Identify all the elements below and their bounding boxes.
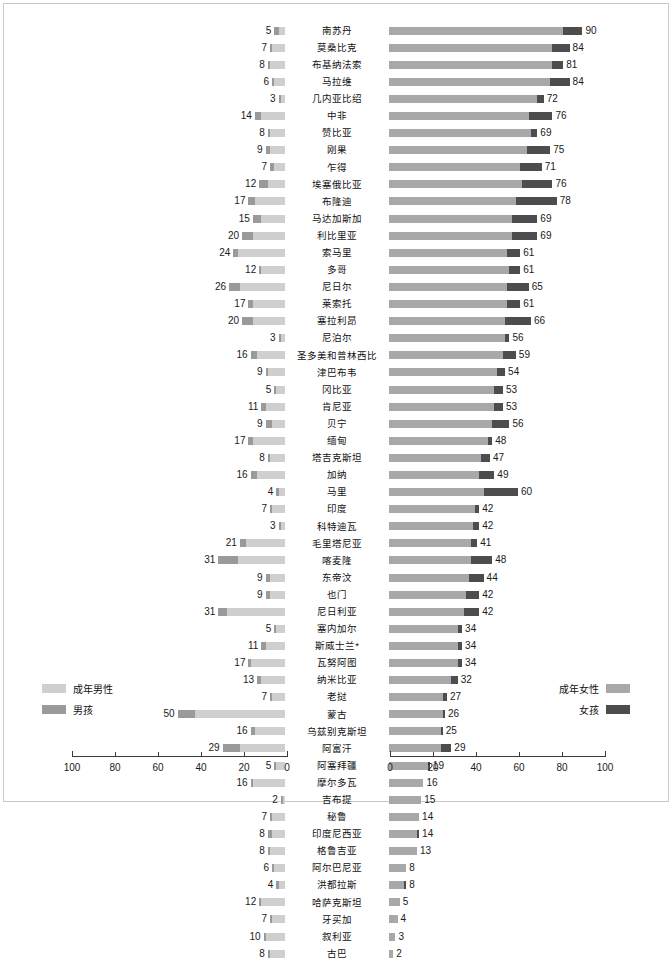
country-label: 贝宁	[287, 419, 387, 429]
axis-tick-label: 0	[284, 762, 290, 773]
country-label: 利比里亚	[287, 231, 387, 241]
axis-tick	[562, 752, 563, 757]
left-bar-segment-adult-men	[246, 539, 285, 547]
left-bar-segment-adult-men	[261, 676, 285, 684]
right-value-label: 76	[555, 111, 566, 121]
country-label: 也门	[287, 590, 387, 600]
right-value-label: 56	[512, 333, 523, 343]
left-value-label: 13	[243, 675, 254, 685]
axis-line-right	[390, 756, 605, 757]
right-bar	[389, 539, 477, 547]
right-bar-segment-girls	[520, 163, 542, 171]
legend-label-boys: 男孩	[73, 702, 93, 717]
left-bar-segment-boys	[223, 744, 240, 752]
row-right-pane: 61	[387, 299, 670, 309]
axis-tick	[519, 752, 520, 757]
left-value-label: 24	[219, 248, 230, 258]
left-bar-segment-adult-men	[283, 796, 285, 804]
right-bar-segment-adult-women	[389, 163, 520, 171]
country-label: 尼日尔	[287, 282, 387, 292]
right-bar-segment-girls	[552, 44, 569, 52]
country-label: 印度	[287, 504, 387, 514]
right-bar-segment-adult-women	[389, 625, 458, 633]
left-value-label: 9	[257, 367, 263, 377]
right-bar-segment-girls	[479, 471, 494, 479]
axis-tick-label: 0	[387, 762, 393, 773]
row-left-pane: 7	[4, 504, 287, 514]
left-bar	[264, 933, 286, 941]
right-bar	[389, 830, 419, 838]
right-bar-segment-adult-women	[389, 249, 507, 257]
right-value-label: 56	[512, 419, 523, 429]
chart-row: 7秘鲁14	[4, 808, 670, 825]
left-bar-segment-adult-men	[270, 129, 285, 137]
row-right-pane: 48	[387, 555, 670, 565]
row-right-pane: 54	[387, 367, 670, 377]
right-bar-segment-adult-women	[389, 608, 464, 616]
chart-row: 5冈比亚53	[4, 381, 670, 398]
right-value-label: 69	[540, 214, 551, 224]
row-right-pane: 25	[387, 726, 670, 736]
chart-row: 4马里60	[4, 484, 670, 501]
left-bar-segment-adult-men	[274, 163, 285, 171]
right-bar-segment-girls	[503, 351, 516, 359]
row-right-pane: 44	[387, 573, 670, 583]
row-right-pane: 4	[387, 914, 670, 924]
row-left-pane: 16	[4, 726, 287, 736]
chart-row: 12多哥61	[4, 261, 670, 278]
row-right-pane: 65	[387, 282, 670, 292]
left-bar-segment-boys	[259, 180, 268, 188]
left-bar	[268, 830, 285, 838]
right-value-label: 15	[424, 795, 435, 805]
row-right-pane: 59	[387, 350, 670, 360]
right-value-label: 13	[420, 846, 431, 856]
left-bar-segment-adult-men	[261, 898, 285, 906]
row-left-pane: 12	[4, 897, 287, 907]
right-bar-segment-adult-women	[389, 437, 488, 445]
left-bar	[272, 864, 285, 872]
left-value-label: 4	[268, 880, 274, 890]
left-bar-segment-adult-men	[253, 232, 285, 240]
axis-tick	[72, 751, 73, 757]
left-bar	[178, 710, 286, 718]
row-right-pane: 66	[387, 316, 670, 326]
chart-rows: 5南苏丹907莫桑比克848布基纳法索816马拉维843几内亚比绍7214中非7…	[4, 22, 670, 962]
row-right-pane: 76	[387, 111, 670, 121]
right-bar	[389, 608, 479, 616]
left-value-label: 8	[259, 829, 265, 839]
axis-tick	[244, 752, 245, 757]
row-right-pane: 8	[387, 863, 670, 873]
right-value-label: 42	[482, 521, 493, 531]
left-value-label: 7	[261, 504, 267, 514]
row-right-pane: 69	[387, 128, 670, 138]
right-bar-segment-girls	[492, 420, 509, 428]
left-value-label: 8	[259, 949, 265, 959]
legend-item-adult-men: 成年男性	[42, 680, 113, 696]
right-bar-segment-girls	[507, 300, 520, 308]
row-left-pane: 24	[4, 248, 287, 258]
right-bar-segment-girls	[475, 505, 479, 513]
right-bar	[389, 78, 570, 86]
row-left-pane: 5	[4, 385, 287, 395]
legend-right: 成年女性 女孩	[559, 680, 630, 722]
right-bar	[389, 351, 516, 359]
right-bar	[389, 454, 490, 462]
right-bar	[389, 283, 529, 291]
left-bar	[242, 232, 285, 240]
right-bar-segment-adult-women	[389, 78, 550, 86]
right-bar	[389, 864, 406, 872]
country-label: 尼泊尔	[287, 333, 387, 343]
left-bar-segment-adult-men	[253, 317, 285, 325]
chart-row: 7莫桑比克84	[4, 39, 670, 56]
right-bar-segment-adult-women	[389, 727, 441, 735]
left-bar	[251, 351, 285, 359]
right-bar-segment-girls	[484, 488, 518, 496]
country-label: 塞拉利昂	[287, 316, 387, 326]
right-bar-segment-girls	[473, 522, 479, 530]
chart-row: 29阿富汗29	[4, 740, 670, 757]
row-right-pane: 72	[387, 94, 670, 104]
chart-row: 26尼日尔65	[4, 278, 670, 295]
left-bar-segment-adult-men	[270, 61, 285, 69]
row-left-pane: 12	[4, 179, 287, 189]
right-value-label: 76	[555, 179, 566, 189]
